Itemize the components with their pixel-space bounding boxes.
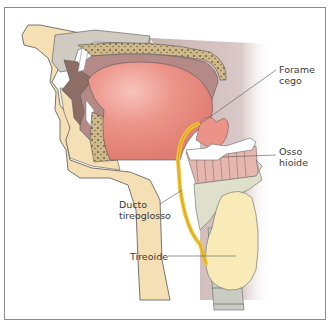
label-osso-hioide: Osso hioide [279, 146, 308, 168]
tongue [88, 62, 213, 160]
label-tireoide: Tireoide [130, 251, 168, 262]
label-ducto-tireoglosso: Ducto tireoglosso [119, 199, 171, 221]
label-forame-cego: Forame cego [279, 64, 315, 86]
